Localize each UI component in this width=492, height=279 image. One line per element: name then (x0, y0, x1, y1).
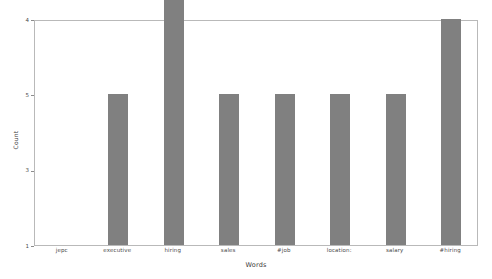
bar (386, 94, 406, 245)
bar-group (35, 21, 477, 245)
bar-slot (257, 21, 313, 245)
bar-slot (368, 21, 424, 245)
bar (108, 94, 128, 245)
plot-area (34, 20, 478, 246)
bar (441, 19, 461, 245)
x-axis-title: Words (34, 261, 478, 269)
y-axis-tick-group: 4531 (0, 20, 34, 246)
x-axis-tick-label: #hiring (440, 247, 461, 253)
y-axis-tick: 1 (0, 246, 34, 247)
y-axis-tick: 5 (0, 95, 34, 96)
bar (219, 94, 239, 245)
x-axis-tick-label: hiring (164, 247, 181, 253)
x-axis-tick-label: location: (327, 247, 352, 253)
x-axis-tick-label: sales (221, 247, 236, 253)
x-axis-tick-group: jepcexecutivehiringsales#joblocation:sal… (34, 247, 478, 261)
bar (164, 0, 184, 245)
x-axis-tick-label: salary (386, 247, 404, 253)
bar-slot (146, 21, 202, 245)
bar-slot (91, 21, 147, 245)
bar-chart: Count 4531 jepcexecutivehiringsales#jobl… (0, 0, 492, 279)
y-axis-tick: 4 (0, 20, 34, 21)
bar-slot (313, 21, 369, 245)
x-axis-tick-label: jepc (56, 247, 68, 253)
bar-slot (424, 21, 480, 245)
x-axis-tick-label: #job (277, 247, 291, 253)
y-axis-tick: 3 (0, 171, 34, 172)
bar-slot (35, 21, 91, 245)
bar (330, 94, 350, 245)
bar-slot (202, 21, 258, 245)
bar (275, 94, 295, 245)
x-axis-tick-label: executive (103, 247, 131, 253)
